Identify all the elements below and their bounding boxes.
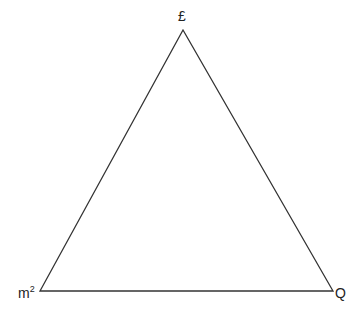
q-label: Q bbox=[335, 285, 346, 301]
triangle-shape bbox=[40, 30, 333, 291]
squared-superscript: 2 bbox=[30, 284, 35, 294]
pound-sign-label: £ bbox=[178, 8, 186, 24]
m-label: m bbox=[18, 285, 30, 301]
triangle-diagram bbox=[0, 0, 358, 316]
vertex-label-top: £ bbox=[178, 9, 186, 23]
vertex-label-bottom-right: Q bbox=[335, 286, 346, 300]
vertex-label-bottom-left: m2 bbox=[18, 286, 35, 300]
